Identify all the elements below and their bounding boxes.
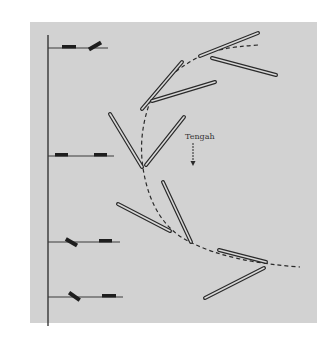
timeline-row-1: [48, 41, 108, 51]
rod-pair-2: [142, 62, 215, 109]
flat-block: [55, 153, 68, 157]
timeline-row-2: [48, 153, 114, 157]
tilted-block: [68, 291, 81, 302]
rod-pair-5: [205, 250, 266, 298]
trajectory-dashed-curve: [142, 45, 300, 267]
down-arrow-icon: [191, 143, 196, 166]
timeline-row-3: [48, 237, 120, 247]
rod-pair-1: [200, 33, 276, 75]
flat-block: [94, 153, 107, 157]
rod-pair-4: [118, 182, 191, 242]
flat-block: [102, 294, 116, 298]
rod-pair-3: [110, 114, 184, 167]
flat-block: [99, 239, 112, 243]
motion-diagram: [0, 0, 334, 340]
direction-label: Tengah: [185, 132, 215, 141]
flat-block: [62, 45, 76, 49]
timeline-row-4: [48, 291, 123, 302]
tilted-block: [88, 41, 102, 51]
